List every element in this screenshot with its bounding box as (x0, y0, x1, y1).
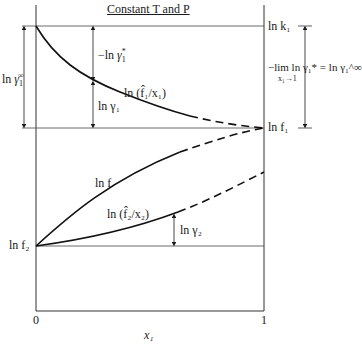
diagram-canvas (0, 0, 362, 345)
label-ln-f1hat-over-x1: ln (f̂₁/x₁) (124, 87, 166, 99)
label-ln-gamma2: ln γ₂ (180, 224, 202, 236)
label-ln-f1: ln f₁ (268, 121, 289, 133)
x-tick-0: 0 (33, 314, 39, 326)
label-ln-gamma1-inf: ln γ1∞ (2, 72, 24, 88)
diagram-title: Constant T and P (107, 3, 190, 15)
label-ln-gamma1: ln γ₁ (98, 100, 120, 112)
curve-ln-f (36, 152, 180, 246)
curve-ln-f1hat-over-x1-dashed (190, 116, 264, 128)
label-neg-ln-gamma1-star: −ln γ1* (98, 48, 126, 64)
label-ln-k1: ln k₁ (268, 20, 291, 32)
label-limit-expr: −lim ln γ₁* = ln γ₁^∞ (268, 62, 362, 73)
label-limit-sub: x₁→1 (278, 75, 297, 83)
label-ln-f2hat-over-x2: ln (f̂₂/x₂) (107, 208, 149, 220)
x-tick-1: 1 (261, 314, 267, 326)
label-ln-f2: ln f₂ (9, 239, 30, 251)
label-ln-f: ln f (95, 177, 111, 189)
curve-ln-f-dashed (180, 128, 264, 152)
x-axis-label: x₁ (144, 329, 154, 341)
curve-ln-f2hat-over-x2-dashed (178, 172, 264, 212)
